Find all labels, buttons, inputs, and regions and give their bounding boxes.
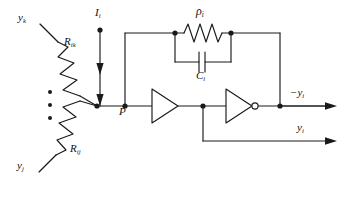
summing-node-dot [94, 103, 99, 108]
lead-rik-to-node [80, 96, 97, 106]
ellipsis-dot-1 [48, 90, 52, 94]
lead-yk [40, 24, 58, 42]
output-direct-arrowhead [325, 137, 337, 145]
schematic-canvas [0, 0, 347, 200]
resistor-rik-body [58, 42, 80, 96]
ellipsis-dot-3 [48, 116, 52, 120]
inverting-bubble-icon [252, 103, 258, 109]
lead-yj [39, 155, 56, 172]
label-node-p: P [119, 106, 126, 117]
circuit-diagram: yk yj Rik Rij Ii P ρi Ci −yi yi [0, 0, 347, 200]
interstage-node-dot [200, 103, 205, 108]
current-source-terminal-dot [97, 27, 102, 32]
label-input-yj: yj [17, 160, 24, 172]
label-current-source-ii: Ii [95, 7, 101, 19]
output-node-dot [277, 103, 282, 108]
label-output-direct: yi [297, 122, 304, 134]
output-inverted-arrowhead [325, 102, 337, 110]
label-output-inverted: −yi [290, 87, 304, 99]
ellipsis-dot-2 [48, 103, 52, 107]
lead-rij-to-node [80, 101, 97, 106]
label-resistor-rij: Rij [70, 143, 81, 155]
current-arrowhead-upper [96, 63, 103, 75]
label-feedback-resistor-rho: ρi [196, 5, 204, 18]
resistor-rho-body [184, 24, 222, 42]
amplifier-stage-2-body [226, 89, 252, 123]
label-input-yk: yk [18, 12, 26, 24]
feedback-right-node-dot [228, 30, 233, 35]
feedback-left-node-dot [172, 30, 177, 35]
label-resistor-rik: Rik [64, 36, 76, 48]
label-feedback-capacitor-ci: Ci [196, 70, 205, 82]
amplifier-stage-1-body [152, 89, 178, 123]
